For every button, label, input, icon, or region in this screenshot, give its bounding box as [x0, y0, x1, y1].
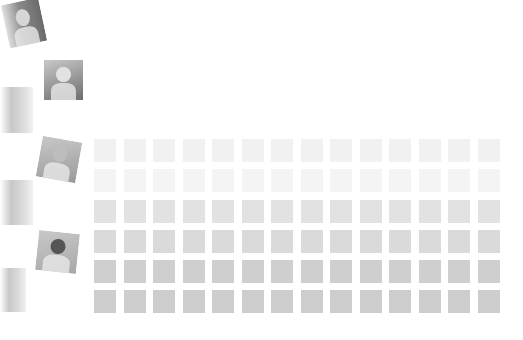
- thumbnail-tile[interactable]: [419, 200, 441, 223]
- thumbnail-tile[interactable]: [271, 230, 293, 253]
- thumbnail-tile[interactable]: [419, 139, 441, 162]
- thumbnail-tile[interactable]: [389, 139, 411, 162]
- thumbnail-tile[interactable]: [94, 260, 116, 283]
- thumbnail-tile[interactable]: [419, 290, 441, 313]
- thumbnail-tile[interactable]: [212, 200, 234, 223]
- thumbnail-tile[interactable]: [183, 260, 205, 283]
- thumbnail-tile[interactable]: [448, 169, 470, 192]
- thumbnail-tile[interactable]: [419, 230, 441, 253]
- thumbnail-tile[interactable]: [360, 139, 382, 162]
- thumbnail-tile[interactable]: [242, 139, 264, 162]
- photo-two-people[interactable]: [34, 229, 81, 275]
- thumbnail-tile[interactable]: [124, 139, 146, 162]
- thumbnail-tile[interactable]: [330, 290, 352, 313]
- thumbnail-tile[interactable]: [242, 230, 264, 253]
- thumbnail-tile[interactable]: [478, 200, 500, 223]
- thumbnail-tile[interactable]: [478, 260, 500, 283]
- thumbnail-tile[interactable]: [301, 139, 323, 162]
- thumbnail-tile[interactable]: [389, 290, 411, 313]
- thumbnail-tile[interactable]: [183, 169, 205, 192]
- thumbnail-tile[interactable]: [448, 139, 470, 162]
- thumbnail-tile[interactable]: [94, 200, 116, 223]
- thumbnail-tile[interactable]: [271, 200, 293, 223]
- thumbnail-tile[interactable]: [478, 169, 500, 192]
- thumbnail-tile[interactable]: [360, 230, 382, 253]
- thumbnail-tile[interactable]: [271, 169, 293, 192]
- thumbnail-tile[interactable]: [330, 200, 352, 223]
- thumbnail-tile[interactable]: [301, 230, 323, 253]
- thumbnail-tile[interactable]: [271, 260, 293, 283]
- thumbnail-tile[interactable]: [478, 290, 500, 313]
- thumbnail-tile[interactable]: [448, 200, 470, 223]
- thumbnail-tile[interactable]: [124, 290, 146, 313]
- thumbnail-tile[interactable]: [153, 200, 175, 223]
- thumbnail-tile[interactable]: [330, 169, 352, 192]
- thumbnail-grid: [94, 139, 500, 313]
- thumbnail-tile[interactable]: [389, 230, 411, 253]
- thumbnail-tile[interactable]: [153, 169, 175, 192]
- thumbnail-tile[interactable]: [360, 290, 382, 313]
- thumbnail-tile[interactable]: [94, 169, 116, 192]
- thumbnail-tile[interactable]: [448, 290, 470, 313]
- thumbnail-tile[interactable]: [153, 260, 175, 283]
- photo-face-closeup[interactable]: [35, 135, 84, 185]
- thumbnail-tile[interactable]: [419, 260, 441, 283]
- thumbnail-tile[interactable]: [301, 290, 323, 313]
- thumbnail-tile[interactable]: [301, 260, 323, 283]
- thumbnail-tile[interactable]: [124, 260, 146, 283]
- thumbnail-tile[interactable]: [94, 230, 116, 253]
- blurred-photo-fragment-2: [0, 180, 33, 225]
- thumbnail-tile[interactable]: [271, 139, 293, 162]
- thumbnail-tile[interactable]: [183, 200, 205, 223]
- thumbnail-tile[interactable]: [124, 169, 146, 192]
- thumbnail-tile[interactable]: [183, 139, 205, 162]
- thumbnail-tile[interactable]: [242, 169, 264, 192]
- thumbnail-tile[interactable]: [301, 200, 323, 223]
- thumbnail-tile[interactable]: [183, 290, 205, 313]
- thumbnail-tile[interactable]: [212, 230, 234, 253]
- thumbnail-tile[interactable]: [360, 169, 382, 192]
- thumbnail-tile[interactable]: [212, 290, 234, 313]
- thumbnail-tile[interactable]: [448, 260, 470, 283]
- thumbnail-tile[interactable]: [389, 260, 411, 283]
- blurred-photo-fragment-3: [0, 268, 26, 312]
- gallery-stage: [0, 0, 523, 340]
- thumbnail-tile[interactable]: [478, 139, 500, 162]
- thumbnail-tile[interactable]: [301, 169, 323, 192]
- thumbnail-tile[interactable]: [360, 260, 382, 283]
- thumbnail-tile[interactable]: [212, 260, 234, 283]
- thumbnail-tile[interactable]: [153, 230, 175, 253]
- thumbnail-tile[interactable]: [94, 139, 116, 162]
- thumbnail-tile[interactable]: [183, 230, 205, 253]
- blurred-photo-fragment-1: [0, 87, 33, 133]
- thumbnail-tile[interactable]: [242, 200, 264, 223]
- thumbnail-tile[interactable]: [360, 200, 382, 223]
- thumbnail-tile[interactable]: [271, 290, 293, 313]
- thumbnail-tile[interactable]: [242, 290, 264, 313]
- thumbnail-tile[interactable]: [153, 290, 175, 313]
- thumbnail-tile[interactable]: [212, 169, 234, 192]
- thumbnail-tile[interactable]: [478, 230, 500, 253]
- thumbnail-tile[interactable]: [124, 230, 146, 253]
- thumbnail-tile[interactable]: [242, 260, 264, 283]
- thumbnail-tile[interactable]: [419, 169, 441, 192]
- thumbnail-tile[interactable]: [212, 139, 234, 162]
- thumbnail-tile[interactable]: [94, 290, 116, 313]
- photo-clown-child[interactable]: [0, 0, 48, 50]
- thumbnail-tile[interactable]: [389, 200, 411, 223]
- photo-girl-with-book[interactable]: [43, 59, 84, 101]
- thumbnail-tile[interactable]: [389, 169, 411, 192]
- thumbnail-tile[interactable]: [448, 230, 470, 253]
- thumbnail-tile[interactable]: [330, 139, 352, 162]
- thumbnail-tile[interactable]: [330, 230, 352, 253]
- thumbnail-tile[interactable]: [330, 260, 352, 283]
- thumbnail-tile[interactable]: [153, 139, 175, 162]
- thumbnail-tile[interactable]: [124, 200, 146, 223]
